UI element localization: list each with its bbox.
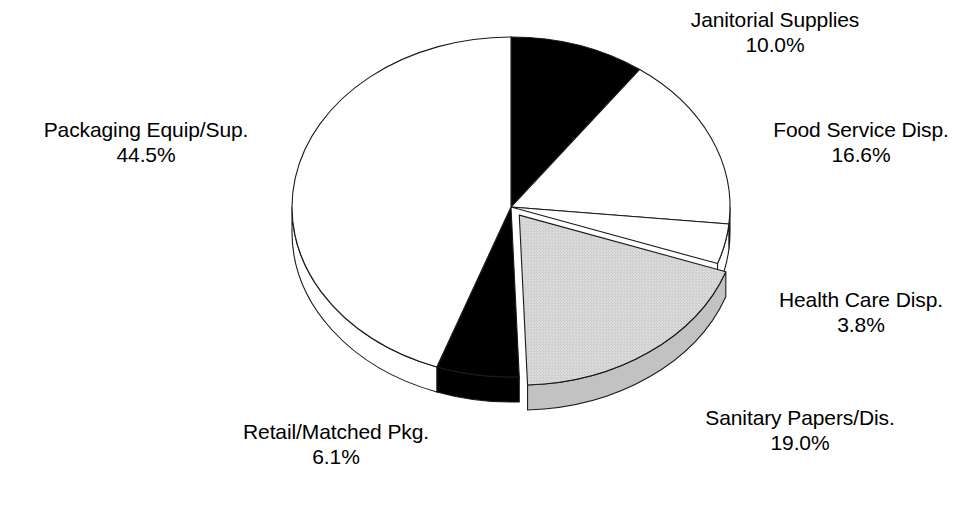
slice-label-sanitary-papers-dis: Sanitary Papers/Dis. 19.0%	[660, 406, 940, 456]
slice-label-value: 3.8%	[742, 313, 980, 338]
slice-label-retail-matched-pkg: Retail/Matched Pkg. 6.1%	[196, 420, 476, 470]
slice-label-name: Retail/Matched Pkg.	[196, 420, 476, 445]
slice-label-value: 10.0%	[610, 33, 940, 58]
slice-label-value: 44.5%	[2, 143, 290, 168]
slice-label-value: 16.6%	[742, 143, 980, 168]
slice-label-value: 6.1%	[196, 445, 476, 470]
slice-label-food-service-disp: Food Service Disp. 16.6%	[742, 118, 980, 168]
slice-label-packaging-equip-sup: Packaging Equip/Sup. 44.5%	[2, 118, 290, 168]
slice-label-name: Janitorial Supplies	[610, 8, 940, 33]
slice-label-name: Sanitary Papers/Dis.	[660, 406, 940, 431]
pie-chart: Packaging Equip/Sup. 44.5% Janitorial Su…	[0, 0, 980, 505]
slice-label-name: Food Service Disp.	[742, 118, 980, 143]
slice-label-value: 19.0%	[660, 431, 940, 456]
slice-label-health-care-disp: Health Care Disp. 3.8%	[742, 288, 980, 338]
slice-label-name: Packaging Equip/Sup.	[2, 118, 290, 143]
slice-label-janitorial-supplies: Janitorial Supplies 10.0%	[610, 8, 940, 58]
slice-label-name: Health Care Disp.	[742, 288, 980, 313]
